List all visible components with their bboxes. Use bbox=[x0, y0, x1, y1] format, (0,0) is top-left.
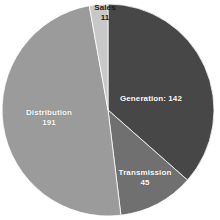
pie-label-transmission-name: Transmission bbox=[119, 168, 172, 177]
pie-label-distribution: Distribution 191 bbox=[8, 108, 90, 128]
pie-label-sales-value: 11 bbox=[80, 13, 130, 23]
pie-label-sales: Sales 11 bbox=[80, 3, 130, 23]
pie-label-generation: Generation: 142 bbox=[120, 94, 216, 104]
pie-chart: Generation: 142 Transmission 45 Distribu… bbox=[0, 0, 220, 220]
pie-label-distribution-name: Distribution bbox=[26, 108, 72, 117]
pie-label-transmission-value: 45 bbox=[104, 178, 186, 188]
pie-label-sales-name: Sales bbox=[94, 3, 115, 12]
pie-label-transmission: Transmission 45 bbox=[104, 168, 186, 188]
pie-label-distribution-value: 191 bbox=[8, 118, 90, 128]
pie-label-generation-text: Generation: 142 bbox=[120, 94, 182, 103]
